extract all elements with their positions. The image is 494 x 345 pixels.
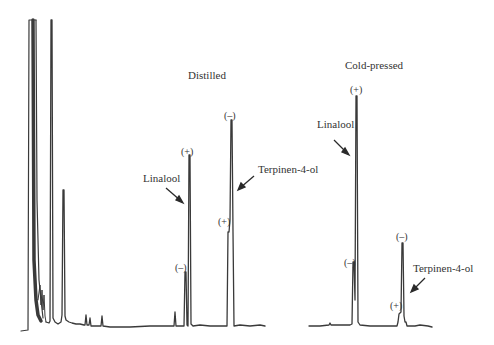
terpinen-distilled-label: Terpinen-4-ol bbox=[258, 163, 318, 175]
linalool-coldpressed-label: Linalool bbox=[317, 118, 354, 130]
linalool-minus-label: (–) bbox=[175, 262, 187, 273]
terpinen-plus-label: (+) bbox=[218, 216, 230, 227]
linalool-plus-label: (+) bbox=[181, 146, 193, 157]
linalool-distilled-label: Linalool bbox=[143, 172, 180, 184]
terpinen-cp-minus-label: (–) bbox=[396, 231, 408, 242]
coldpressed-title: Cold-pressed bbox=[345, 59, 403, 71]
linalool-cp-minus-label: (–) bbox=[344, 257, 356, 268]
terpinen-minus-label: (–) bbox=[224, 110, 236, 121]
terpinen-coldpressed-label: Terpinen-4-ol bbox=[413, 262, 473, 274]
coldpressed-trace bbox=[309, 96, 432, 327]
chromatogram-plot bbox=[0, 0, 494, 345]
linalool-cp-plus-label: (+) bbox=[350, 84, 362, 95]
chromatogram-figure: Distilled (+) Linalool (–) (–) Terpinen-… bbox=[0, 0, 494, 345]
distilled-title: Distilled bbox=[188, 69, 226, 81]
terpinen-cp-plus-label: (+) bbox=[390, 300, 402, 311]
